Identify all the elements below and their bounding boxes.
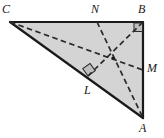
centroid-point	[111, 56, 114, 59]
vertex-label-B: B	[138, 3, 145, 15]
vertex-label-A: A	[139, 122, 146, 134]
point-label-M: M	[147, 62, 157, 74]
geometry-figure: C B A M N L	[0, 0, 164, 138]
vertex-label-C: C	[2, 3, 10, 15]
triangle-diagram-svg	[0, 0, 164, 138]
point-label-N: N	[91, 3, 99, 15]
point-label-L: L	[84, 84, 91, 96]
